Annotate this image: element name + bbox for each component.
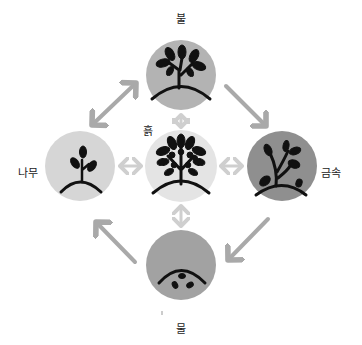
label-earth: 흙 <box>143 126 153 137</box>
label-fire: 불 <box>176 14 186 25</box>
node-water <box>146 230 216 300</box>
arrow-fire-metal <box>226 86 266 126</box>
node-earth <box>145 130 217 202</box>
five-elements-diagram: 불 흙 나무 금속 물 <box>0 0 362 345</box>
label-metal: 금속 <box>321 168 341 179</box>
diagram-canvas <box>0 0 362 345</box>
arrow-metal-water <box>228 219 268 260</box>
label-water: 물 <box>176 324 186 335</box>
label-wood: 나무 <box>18 168 38 179</box>
node-fire <box>146 40 216 110</box>
node-wood <box>45 131 115 201</box>
arrow-wood-fire <box>92 83 136 125</box>
arrow-water-wood <box>96 222 135 262</box>
node-metal <box>247 131 317 201</box>
